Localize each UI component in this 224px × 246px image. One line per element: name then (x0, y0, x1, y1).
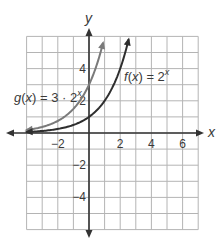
y-tick-label: 4 (79, 62, 86, 76)
y-axis-label: y (84, 10, 93, 26)
y-tick-label: −4 (72, 190, 86, 204)
x-axis-arrow-right-icon (196, 130, 204, 137)
function-graph: x y −224642−2−4 g(x) = 3 · 2xf(x) = 2x (0, 0, 224, 246)
y-axis-arrow-up-icon (86, 28, 93, 36)
curve-arrow-up-icon (124, 37, 131, 46)
x-tick-label: 2 (117, 137, 124, 151)
function-labels: g(x) = 3 · 2xf(x) = 2x (14, 67, 170, 105)
curve-arrow-up-icon (98, 41, 105, 50)
axes: x y (6, 10, 216, 238)
label-g: g(x) = 3 · 2x (14, 88, 82, 105)
y-axis-arrow-down-icon (86, 230, 93, 238)
x-tick-label: 6 (179, 137, 186, 151)
x-tick-label: −2 (51, 137, 65, 151)
x-axis-arrow-left-icon (6, 130, 14, 137)
label-f: f(x) = 2x (124, 67, 170, 84)
y-tick-label: −2 (72, 158, 86, 172)
x-tick-label: 4 (148, 137, 155, 151)
x-axis-label: x (207, 124, 216, 140)
